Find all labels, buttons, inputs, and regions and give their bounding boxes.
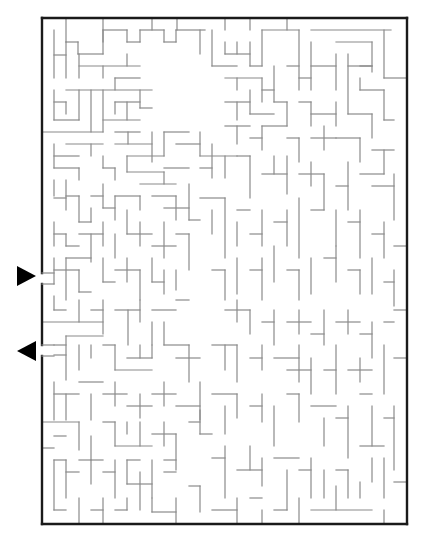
entrance-arrow-icon	[17, 266, 36, 286]
maze-walls	[42, 18, 407, 524]
exit-arrow-icon	[17, 341, 36, 361]
maze-board	[0, 0, 429, 546]
